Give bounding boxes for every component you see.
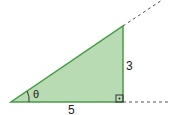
triangle-diagram (0, 0, 169, 115)
triangle-shape (11, 26, 123, 102)
angle-label: θ (33, 88, 39, 100)
adjacent-side-label: 5 (68, 103, 75, 115)
right-angle-dot (119, 98, 121, 100)
opposite-side-label: 3 (126, 59, 133, 73)
hypotenuse-extension (123, 0, 162, 26)
